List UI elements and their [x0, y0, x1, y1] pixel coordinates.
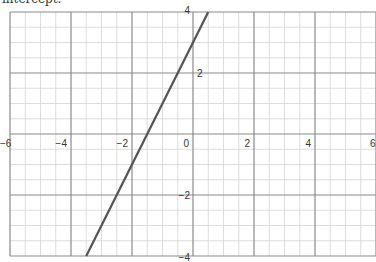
- svg-text:2: 2: [197, 68, 203, 79]
- svg-text:4: 4: [184, 5, 190, 16]
- svg-text:6: 6: [370, 138, 376, 149]
- svg-text:4: 4: [305, 138, 311, 149]
- svg-text:−4: −4: [56, 138, 68, 149]
- svg-text:−2: −2: [179, 190, 191, 201]
- svg-text:−6: −6: [0, 138, 12, 149]
- x-tick-labels: −6−4−20246: [0, 138, 376, 149]
- svg-text:0: 0: [183, 138, 189, 149]
- svg-text:−4: −4: [179, 252, 191, 262]
- svg-text:2: 2: [244, 138, 250, 149]
- svg-text:−2: −2: [117, 138, 129, 149]
- coordinate-grid-chart: −6−4−20246 −4−224: [0, 0, 376, 262]
- major-grid: [10, 12, 376, 256]
